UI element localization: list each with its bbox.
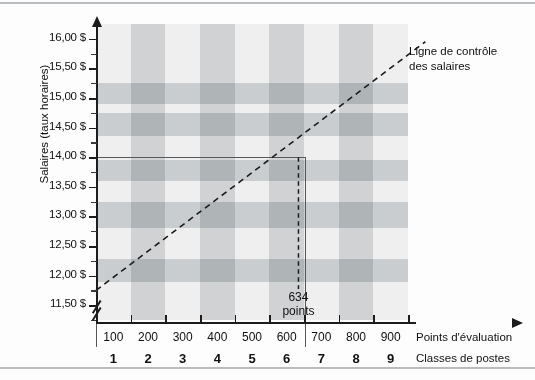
x-axis-tick	[165, 315, 167, 323]
x-axis-tick	[408, 315, 410, 323]
y-axis-tick-label: 13,50 $	[20, 179, 86, 191]
y-axis-tick-label: 13,00 $	[20, 208, 86, 220]
marker-label: 634 points	[258, 290, 338, 318]
y-axis-minor-tick	[91, 231, 97, 232]
y-axis-tick-label: 14,00 $	[20, 149, 86, 161]
y-axis-minor-tick	[91, 54, 97, 55]
y-axis-tick-label: 15,00 $	[20, 90, 86, 102]
y-axis-tick	[89, 187, 97, 189]
x-axis-tick	[339, 315, 341, 323]
y-axis-minor-tick	[91, 83, 97, 84]
x-axis-tick	[200, 315, 202, 323]
x-axis-class-label: 9	[368, 351, 414, 366]
y-axis-tick	[89, 128, 97, 130]
y-axis-tick-label: 16,00 $	[20, 31, 86, 43]
y-axis-tick	[89, 276, 97, 278]
y-axis-minor-tick	[91, 202, 97, 203]
y-axis-tick	[89, 246, 97, 248]
y-axis-tick-label: 15,50 $	[20, 60, 86, 72]
y-axis-tick	[89, 68, 97, 70]
x-axis-title-points: Points d'évaluation	[416, 331, 512, 343]
y-axis-tick-label: 14,50 $	[20, 120, 86, 132]
y-axis-minor-tick	[91, 172, 97, 173]
y-axis-tick	[89, 98, 97, 100]
y-axis-minor-tick	[91, 290, 97, 291]
x-axis-tick	[373, 315, 375, 323]
x-axis-line	[96, 322, 416, 324]
y-axis-title: Salaires (taux horaires)	[38, 44, 50, 204]
x-axis-tick	[235, 315, 237, 323]
y-axis-tick	[89, 157, 97, 159]
control-line-annotation: Ligne de contrôle des salaires	[409, 44, 497, 74]
marker-label-points: 634	[258, 290, 338, 304]
y-axis-minor-tick	[91, 113, 97, 114]
x-axis-tick	[269, 315, 271, 323]
x-axis-arrow-icon	[512, 318, 523, 328]
y-axis-tick	[89, 39, 97, 41]
y-axis-tick	[89, 216, 97, 218]
y-axis-tick-label: 12,50 $	[20, 238, 86, 250]
y-axis-tick-label: 11,50 $	[20, 297, 86, 309]
x-axis-points-label: 900	[368, 330, 414, 344]
y-axis-tick-label: 12,00 $	[20, 268, 86, 280]
x-axis-tick	[304, 315, 306, 323]
y-axis-minor-tick	[91, 142, 97, 143]
x-axis-title-classes: Classes de postes	[416, 352, 510, 364]
x-axis-tick	[96, 315, 98, 323]
salary-control-line	[96, 42, 425, 291]
y-axis-arrow-icon	[92, 16, 102, 27]
x-axis-tick	[131, 315, 133, 323]
figure-container: Ligne de contrôle des salaires 634 point…	[0, 0, 535, 380]
control-line-annotation-line1: Ligne de contrôle	[409, 44, 497, 59]
control-line-annotation-line2: des salaires	[409, 59, 497, 74]
y-axis-minor-tick	[91, 261, 97, 262]
